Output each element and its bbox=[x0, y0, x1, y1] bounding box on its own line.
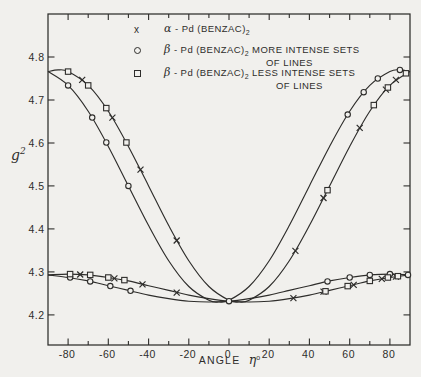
curve-upper-less-intense bbox=[48, 70, 410, 302]
x-tick-label: -80 bbox=[59, 348, 76, 360]
square-marker bbox=[395, 274, 400, 279]
y-tick-label: 4.7 bbox=[28, 94, 44, 106]
circle-marker bbox=[104, 140, 109, 145]
circle-marker bbox=[88, 279, 93, 284]
circle-marker bbox=[345, 112, 350, 117]
square-marker bbox=[65, 69, 70, 74]
circle-marker bbox=[90, 115, 95, 120]
circle-marker bbox=[325, 279, 330, 284]
y-tick-label: 4.2 bbox=[28, 309, 44, 321]
legend-item-beta-less: β - Pd (BENZAC)2 LESS INTENSE SETS bbox=[134, 66, 355, 80]
circle-marker bbox=[65, 83, 70, 88]
legend-item-beta-more: β - Pd (BENZAC)2 MORE INTENSE SETS bbox=[134, 43, 360, 57]
circle-marker bbox=[367, 272, 372, 277]
square-marker bbox=[385, 275, 390, 280]
x-tick-label: 60 bbox=[342, 348, 355, 360]
circle-marker bbox=[226, 299, 231, 304]
x-tick-label: 80 bbox=[383, 348, 396, 360]
eta-symbol: η bbox=[249, 352, 257, 367]
circle-marker bbox=[126, 183, 131, 188]
x-tick-label: -40 bbox=[139, 348, 156, 360]
y-tick-label: 4.6 bbox=[28, 137, 44, 149]
circle-marker-icon bbox=[134, 45, 164, 56]
x-axis-title: ANGLE ηo bbox=[170, 352, 290, 367]
x-tick-label: 40 bbox=[302, 348, 315, 360]
square-marker bbox=[104, 105, 109, 110]
square-marker bbox=[106, 275, 111, 280]
square-marker bbox=[86, 83, 91, 88]
square-marker bbox=[122, 277, 127, 282]
curve-lower-less-intense bbox=[48, 274, 410, 302]
x-tick-label: -60 bbox=[99, 348, 116, 360]
square-marker bbox=[67, 271, 72, 276]
square-marker bbox=[367, 278, 372, 283]
y-axis-title: g2 bbox=[11, 146, 26, 163]
curve-upper-more-intense bbox=[48, 70, 410, 302]
square-marker bbox=[323, 289, 328, 294]
legend: xα - Pd (BENZAC)2 β - Pd (BENZAC)2 MORE … bbox=[128, 0, 418, 100]
figure-canvas: -80-60-40-200204060804.84.74.64.54.44.34… bbox=[0, 0, 421, 377]
square-marker bbox=[325, 188, 330, 193]
circle-marker bbox=[405, 272, 410, 277]
square-marker bbox=[371, 102, 376, 107]
circle-marker bbox=[347, 275, 352, 280]
y-tick-label: 4.8 bbox=[28, 51, 44, 63]
square-marker bbox=[124, 140, 129, 145]
x-marker-icon: x bbox=[134, 24, 164, 35]
circle-marker bbox=[108, 283, 113, 288]
square-marker-icon bbox=[134, 68, 164, 79]
square-marker bbox=[345, 283, 350, 288]
legend-item-alpha: xα - Pd (BENZAC)2 bbox=[134, 22, 250, 36]
y-tick-label: 4.3 bbox=[28, 266, 44, 278]
circle-marker bbox=[128, 288, 133, 293]
curve-lower-more-intense bbox=[48, 274, 410, 302]
legend-item-beta-less-line2: OF LINES bbox=[276, 80, 323, 91]
square-marker bbox=[88, 272, 93, 277]
y-tick-label: 4.4 bbox=[28, 223, 44, 235]
y-tick-label: 4.5 bbox=[28, 180, 44, 192]
